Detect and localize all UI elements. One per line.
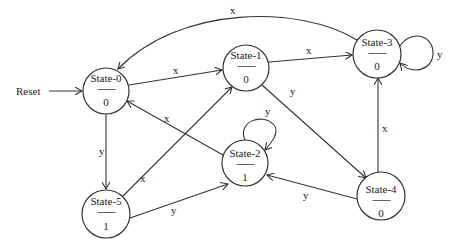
edge-label: y — [99, 145, 105, 157]
state-name: State-1 — [230, 49, 261, 61]
edge-state1-state3: x — [269, 44, 352, 62]
edge-state3-self: y — [400, 36, 443, 70]
state-node-4: State-4 --------- 0 — [357, 172, 405, 220]
state-name: State-0 — [90, 72, 122, 84]
state-output: 0 — [378, 207, 384, 219]
reset-transition: Reset — [16, 85, 82, 97]
edge-label: x — [140, 172, 146, 184]
edge-state4-state2: y — [267, 175, 357, 201]
edge-label: y — [303, 189, 309, 201]
state-separator: --------- — [237, 61, 256, 71]
edge-label: x — [382, 122, 388, 134]
state-node-2: State-2 --------- 1 — [222, 140, 268, 186]
edge-label: y — [265, 105, 271, 117]
state-separator: --------- — [97, 84, 116, 94]
state-name: State-5 — [90, 195, 122, 207]
edge-label: x — [173, 64, 179, 76]
state-node-5: State-5 --------- 1 — [82, 190, 130, 238]
state-output: 1 — [242, 171, 248, 183]
state-separator: --------- — [368, 48, 387, 58]
state-separator: --------- — [372, 195, 391, 205]
state-node-3: State-3 --------- 0 — [353, 30, 401, 78]
edge-label: x — [230, 4, 236, 16]
edge-label: y — [290, 85, 296, 97]
edge-state5-state1: x — [122, 87, 232, 197]
state-output: 0 — [103, 96, 109, 108]
state-name: State-3 — [361, 36, 393, 48]
edge-state0-state1: x — [129, 64, 222, 85]
edge-state0-state5: y — [99, 114, 106, 189]
edge-label: x — [306, 44, 312, 56]
state-name: State-4 — [365, 183, 397, 195]
edge-state4-state3: x — [378, 78, 388, 172]
state-output: 0 — [243, 73, 249, 85]
edge-label: y — [437, 48, 443, 60]
edge-state5-state2: y — [130, 184, 228, 218]
state-separator: --------- — [236, 159, 255, 169]
state-node-0: State-0 --------- 0 — [83, 68, 129, 114]
edge-state2-state0: x — [127, 101, 223, 155]
state-output: 0 — [374, 60, 380, 72]
state-diagram: Reset x y x y x y x y x — [0, 0, 457, 251]
reset-label: Reset — [16, 85, 40, 97]
edge-state1-state4: y — [262, 85, 366, 178]
state-name: State-2 — [229, 147, 260, 159]
state-node-1: State-1 --------- 0 — [223, 45, 269, 91]
state-output: 1 — [103, 220, 109, 232]
edge-label: y — [171, 204, 177, 216]
state-separator: --------- — [97, 207, 116, 217]
edge-label: x — [164, 112, 170, 124]
